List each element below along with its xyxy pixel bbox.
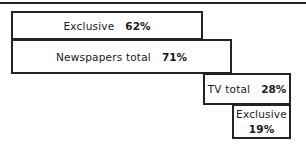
bar-category-label: Exclusive [236,107,287,121]
bar-tv-exclusive: Exclusive 19% [232,104,291,139]
top-divider-rule [0,2,306,4]
bar-value-label: 62% [125,20,150,32]
bar-label-newspapers-exclusive: Exclusive 62% [63,20,150,32]
bar-category-label: Newspapers total [56,51,151,63]
stepped-bar-chart: Exclusive 62% Newspapers total 71% TV to… [0,0,306,146]
bar-category-label: TV total [208,83,251,95]
bar-value-label: 71% [162,51,187,63]
bar-value-label: 19% [249,122,275,136]
bar-label-tv-exclusive: Exclusive 19% [236,107,287,135]
bar-newspapers-total: Newspapers total 71% [11,39,232,74]
bar-tv-total: TV total 28% [203,73,291,105]
bar-label-tv-total: TV total 28% [208,83,287,95]
bar-label-newspapers-total: Newspapers total 71% [56,51,187,63]
bar-newspapers-exclusive: Exclusive 62% [11,11,203,40]
bar-value-label: 28% [261,83,286,95]
bar-category-label: Exclusive [63,20,114,32]
